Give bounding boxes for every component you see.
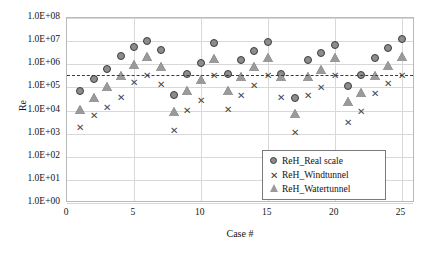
y-axis-tick-label: 1.0E+02 — [2, 151, 60, 161]
gridline-horizontal — [67, 64, 413, 65]
y-axis-tick-label: 1.0E+06 — [2, 58, 60, 68]
data-point-x: ✕ — [277, 93, 286, 102]
data-point-circle — [384, 44, 392, 52]
data-point-triangle — [263, 53, 273, 62]
data-point-circle — [331, 41, 339, 49]
data-point-triangle — [330, 53, 340, 62]
data-point-x: ✕ — [196, 96, 205, 105]
data-point-triangle — [249, 62, 259, 71]
data-point-triangle — [75, 105, 85, 114]
circle-marker-icon — [267, 156, 280, 166]
data-point-circle — [76, 87, 84, 95]
data-point-circle — [90, 75, 98, 83]
data-point-x: ✕ — [370, 89, 379, 98]
data-point-triangle — [343, 97, 353, 106]
reference-line — [67, 75, 413, 76]
data-point-x: ✕ — [223, 105, 232, 114]
y-axis-tick-label: 1.0E+07 — [2, 35, 60, 45]
data-point-circle — [117, 52, 125, 60]
data-point-x: ✕ — [76, 123, 85, 132]
data-point-triangle — [182, 86, 192, 95]
data-point-x: ✕ — [384, 79, 393, 88]
data-point-circle — [143, 37, 151, 45]
x-axis-tick-label: 15 — [252, 208, 282, 218]
data-point-circle — [371, 54, 379, 62]
data-point-x: ✕ — [116, 93, 125, 102]
data-point-triangle — [276, 72, 286, 81]
data-point-triangle — [89, 93, 99, 102]
gridline-horizontal — [67, 18, 413, 19]
data-point-triangle — [290, 109, 300, 118]
data-point-x: ✕ — [183, 106, 192, 115]
data-point-x: ✕ — [129, 78, 138, 87]
data-point-x: ✕ — [89, 111, 98, 120]
y-axis-tick-label: 1.0E+05 — [2, 81, 60, 91]
data-point-triangle — [303, 72, 313, 81]
data-point-x: ✕ — [237, 91, 246, 100]
data-point-triangle — [142, 52, 152, 61]
reynolds-number-scatter-chart: ✕✕✕✕✕✕✕✕✕✕✕✕✕✕✕✕✕✕✕✕✕✕✕✕✕ 1.0E+081.0E+07… — [0, 0, 426, 256]
gridline-vertical — [402, 18, 403, 201]
legend-label: ReH_Watertunnel — [282, 184, 350, 194]
y-axis-tick-label: 1.0E+00 — [2, 197, 60, 207]
chart-legend: ReH_Real scale ✕ ReH_Windtunnel ReH_Wate… — [262, 150, 386, 200]
data-point-x: ✕ — [250, 81, 259, 90]
data-point-x: ✕ — [103, 103, 112, 112]
data-point-x: ✕ — [290, 128, 299, 137]
gridline-horizontal — [67, 203, 413, 204]
legend-item-watertunnel: ReH_Watertunnel — [267, 182, 381, 196]
legend-item-real-scale: ReH_Real scale — [267, 154, 381, 168]
data-point-triangle — [223, 86, 233, 95]
data-point-circle — [197, 59, 205, 67]
data-point-triangle — [209, 54, 219, 63]
data-point-x: ✕ — [303, 91, 312, 100]
data-point-circle — [237, 56, 245, 64]
data-point-circle — [170, 91, 178, 99]
x-axis-tick-label: 5 — [118, 208, 148, 218]
data-point-circle — [183, 70, 191, 78]
gridline-horizontal — [67, 41, 413, 42]
data-point-circle — [130, 43, 138, 51]
data-point-triangle — [397, 52, 407, 61]
data-point-x: ✕ — [156, 80, 165, 89]
data-point-triangle — [129, 60, 139, 69]
x-axis-title: Case # — [66, 228, 414, 239]
data-point-triangle — [156, 62, 166, 71]
data-point-circle — [344, 82, 352, 90]
data-point-triangle — [102, 82, 112, 91]
data-point-x: ✕ — [357, 107, 366, 116]
data-point-circle — [291, 94, 299, 102]
data-point-triangle — [169, 107, 179, 116]
x-axis-tick-label: 25 — [386, 208, 416, 218]
gridline-horizontal — [67, 134, 413, 135]
data-point-x: ✕ — [317, 83, 326, 92]
legend-label: ReH_Real scale — [282, 156, 343, 166]
data-point-x: ✕ — [344, 118, 353, 127]
data-point-circle — [398, 35, 406, 43]
data-point-circle — [103, 65, 111, 73]
y-axis-tick-label: 1.0E+08 — [2, 12, 60, 22]
data-point-circle — [250, 47, 258, 55]
y-axis-tick-label: 1.0E+03 — [2, 128, 60, 138]
data-point-circle — [210, 39, 218, 47]
data-point-circle — [224, 70, 232, 78]
data-point-circle — [157, 46, 165, 54]
x-marker-icon: ✕ — [267, 170, 280, 181]
triangle-marker-icon — [267, 184, 280, 194]
data-point-triangle — [196, 75, 206, 84]
x-axis-tick-label: 20 — [319, 208, 349, 218]
legend-label: ReH_Windtunnel — [282, 170, 349, 180]
y-axis-tick-label: 1.0E+04 — [2, 105, 60, 115]
data-point-circle — [304, 56, 312, 64]
data-point-triangle — [383, 61, 393, 70]
data-point-circle — [317, 49, 325, 57]
y-axis-title: Re — [17, 76, 28, 136]
x-axis-tick-label: 10 — [185, 208, 215, 218]
x-axis-tick-label: 0 — [51, 208, 81, 218]
legend-item-windtunnel: ✕ ReH_Windtunnel — [267, 168, 381, 182]
y-axis-tick-label: 1.0E+01 — [2, 174, 60, 184]
data-point-circle — [264, 38, 272, 46]
data-point-triangle — [236, 72, 246, 81]
data-point-triangle — [316, 65, 326, 74]
gridline-vertical — [201, 18, 202, 201]
